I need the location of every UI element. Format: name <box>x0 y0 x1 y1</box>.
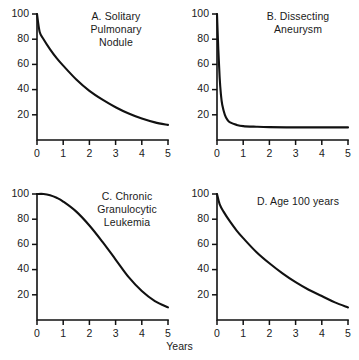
y-tick-label: 80 <box>197 32 209 44</box>
x-tick-label: 3 <box>113 147 119 159</box>
y-tick-label: 100 <box>191 187 209 199</box>
y-tick-label: 60 <box>197 237 209 249</box>
y-tick-label: 80 <box>17 32 29 44</box>
y-tick-label: 20 <box>17 288 29 300</box>
x-tick-label: 0 <box>34 147 40 159</box>
y-tick-label: 40 <box>197 262 209 274</box>
survival-curve <box>217 194 348 307</box>
panel-b-title: B. Dissecting Aneurysm <box>242 10 354 36</box>
panel-c-title: C. Chronic Granulocytic Leukemia <box>76 190 178 229</box>
y-tick-label: 100 <box>11 187 29 199</box>
y-tick-label: 40 <box>17 82 29 94</box>
y-tick-label: 40 <box>197 82 209 94</box>
x-tick-label: 5 <box>345 327 351 339</box>
y-tick-label: 80 <box>17 212 29 224</box>
x-tick-label: 1 <box>240 327 246 339</box>
x-tick-label: 0 <box>214 147 220 159</box>
x-tick-label: 1 <box>240 147 246 159</box>
x-tick-label: 3 <box>293 327 299 339</box>
x-tick-label: 2 <box>86 147 92 159</box>
x-tick-label: 5 <box>165 147 171 159</box>
y-tick-label: 100 <box>191 7 209 19</box>
x-tick-label: 1 <box>60 147 66 159</box>
x-tick-label: 2 <box>266 147 272 159</box>
x-tick-label: 2 <box>266 327 272 339</box>
y-tick-label: 20 <box>17 108 29 120</box>
x-axis-title: Years <box>0 340 359 352</box>
x-tick-label: 4 <box>319 147 325 159</box>
panel-grid: 20406080100012345 20406080100012345 2040… <box>0 0 359 360</box>
y-tick-label: 60 <box>17 57 29 69</box>
y-tick-label: 60 <box>17 237 29 249</box>
x-tick-label: 0 <box>34 327 40 339</box>
survival-curves-figure: 20406080100012345 20406080100012345 2040… <box>0 0 359 360</box>
y-tick-label: 20 <box>197 288 209 300</box>
x-tick-label: 5 <box>345 147 351 159</box>
panel-d-title: D. Age 100 years <box>240 195 356 208</box>
panel-a-title: A. Solitary Pulmonary Nodule <box>62 10 170 49</box>
x-tick-label: 3 <box>113 327 119 339</box>
x-tick-label: 5 <box>165 327 171 339</box>
x-tick-label: 2 <box>86 327 92 339</box>
y-tick-label: 40 <box>17 262 29 274</box>
x-tick-label: 4 <box>139 147 145 159</box>
x-tick-label: 4 <box>319 327 325 339</box>
y-tick-label: 80 <box>197 212 209 224</box>
x-tick-label: 1 <box>60 327 66 339</box>
y-tick-label: 100 <box>11 7 29 19</box>
x-tick-label: 4 <box>139 327 145 339</box>
y-tick-label: 20 <box>197 108 209 120</box>
y-tick-label: 60 <box>197 57 209 69</box>
x-tick-label: 0 <box>214 327 220 339</box>
x-tick-label: 3 <box>293 147 299 159</box>
